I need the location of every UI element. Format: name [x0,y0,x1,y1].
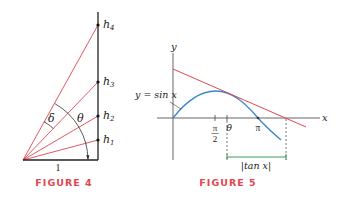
point-h1 [96,138,99,141]
figures-canvas: h4 h3 h2 h1 δ θ 1 FIGURE 4 y x π 2 θ [0,0,339,203]
label-tan-bracket: |tan x| [241,160,271,172]
label-sine-curve: y = sin x [134,89,177,100]
theta-arrowhead [86,155,89,160]
caption-figure-5: FIGURE 5 [199,177,256,188]
figure-4: h4 h3 h2 h1 δ θ 1 FIGURE 4 [23,12,115,188]
ray-h1 [23,140,98,160]
label-h3: h3 [103,75,115,89]
point-h3 [96,80,99,83]
label-delta: δ [48,112,55,125]
label-h2: h2 [103,109,115,123]
label-theta-tick: θ [226,122,232,133]
x-axis-label: x [322,112,328,123]
label-h4: h4 [103,18,115,32]
y-axis-label: y [170,41,177,52]
point-h2 [96,114,99,117]
label-pi-over-2-num: π [213,123,218,133]
rays [23,25,98,160]
sine-label-leader [170,102,181,109]
point-pi [257,117,260,120]
label-base: 1 [56,162,61,173]
ray-h4 [23,25,98,160]
caption-figure-4: FIGURE 4 [35,177,92,188]
label-pi: π [256,123,261,133]
label-h1: h1 [103,133,115,147]
point-h4 [96,23,99,26]
label-theta: θ [77,112,84,125]
figure-5: y x π 2 θ π y = sin x |tan x| FIGURE 5 [134,41,328,188]
label-pi-over-2-den: 2 [213,134,218,144]
ray-h2 [23,116,98,160]
